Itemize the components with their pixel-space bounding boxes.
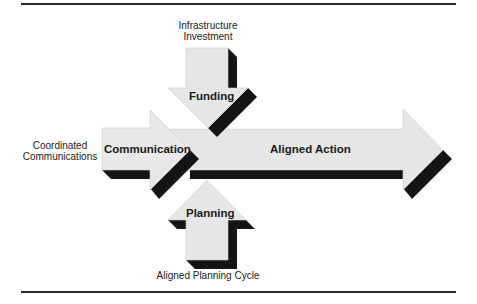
planning-arrow [168,180,255,269]
funding-label: Funding [189,90,234,102]
communication-label: Communication [104,143,191,155]
aligned-action-label: Aligned Action [270,143,351,155]
funding-source-line2: Investment [170,31,246,42]
planning-source-label: Aligned Planning Cycle [150,270,266,281]
funding-shaft-shadow [228,48,237,88]
diagram-frame: Infrastructure Investment Coordinated Co… [0,0,477,304]
funding-source-label: Infrastructure Investment [170,20,246,42]
communication-source-label: Coordinated Communications [18,140,102,162]
communication-source-line2: Communications [18,151,102,162]
communication-shaft-shadow [102,170,150,179]
planning-shadow-left [168,220,186,229]
communication-source-line1: Coordinated [18,140,102,151]
planning-label: Planning [186,207,235,219]
funding-source-line1: Infrastructure [170,20,246,31]
aligned-action-shadow [190,170,403,179]
